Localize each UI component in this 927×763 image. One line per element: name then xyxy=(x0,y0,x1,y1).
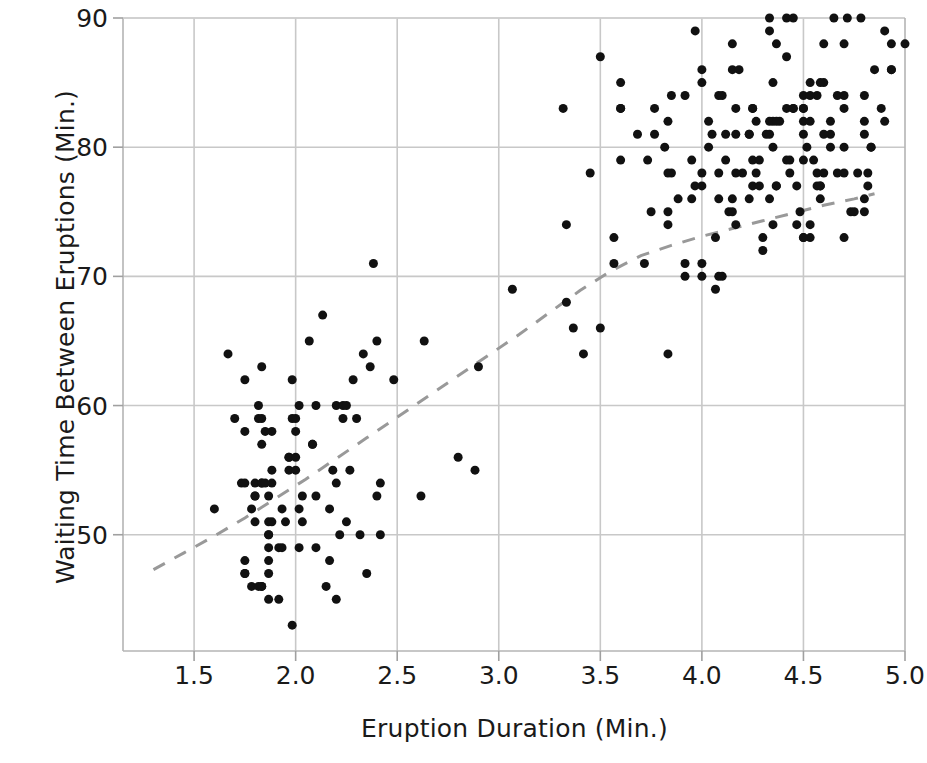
y-tick-label: 80 xyxy=(76,133,108,162)
y-tick-label: 50 xyxy=(76,520,108,549)
y-tick-label: 70 xyxy=(76,262,108,291)
y-axis-tick-labels: 5060708090 xyxy=(0,0,108,763)
x-tick-label: 1.5 xyxy=(174,661,214,690)
scatter-plot-figure: Waiting Time Between Eruptions (Min.) 50… xyxy=(0,0,927,763)
axes-frame xyxy=(123,18,905,651)
x-tick-label: 2.0 xyxy=(276,661,316,690)
x-axis-label: Eruption Duration (Min.) xyxy=(123,714,906,743)
x-tick-label: 3.5 xyxy=(580,661,620,690)
x-tick-label: 4.5 xyxy=(784,661,824,690)
data-points xyxy=(210,14,910,630)
plot-canvas xyxy=(0,0,927,763)
y-tick-label: 90 xyxy=(76,4,108,33)
x-tick-label: 2.5 xyxy=(377,661,417,690)
gridlines xyxy=(123,18,905,651)
axis-tick-marks xyxy=(113,18,905,661)
x-tick-label: 4.0 xyxy=(682,661,722,690)
x-tick-label: 3.0 xyxy=(479,661,519,690)
y-tick-label: 60 xyxy=(76,391,108,420)
x-tick-label: 5.0 xyxy=(885,661,925,690)
